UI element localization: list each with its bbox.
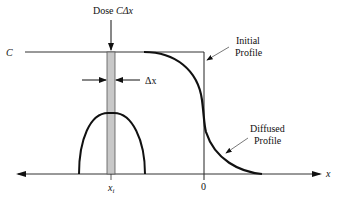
initial-profile-label-line2: Profile [235,47,263,58]
diffused-profile-label-line1: Diffused [250,123,285,134]
x-axis-label: x [325,168,331,179]
diffused-profile-label-line2: Profile [254,135,282,146]
initial-profile-leader [207,47,229,60]
origin-label: 0 [201,181,206,192]
initial-profile-label-line1: Initial [236,35,260,46]
dose-label: Dose CΔx [93,5,134,16]
x-axis-left-arrow-icon [16,171,26,177]
xi-label: xi [107,182,114,195]
diffusion-diagram: C x Dose CΔx Δx Initial Profile Diffused… [0,0,338,201]
diffused-profile-curve [144,52,262,174]
c-label: C [6,47,13,58]
dx-label: Δx [145,75,156,86]
diffused-profile-leader [226,138,248,153]
x-axis-right-arrow-icon [312,171,322,177]
